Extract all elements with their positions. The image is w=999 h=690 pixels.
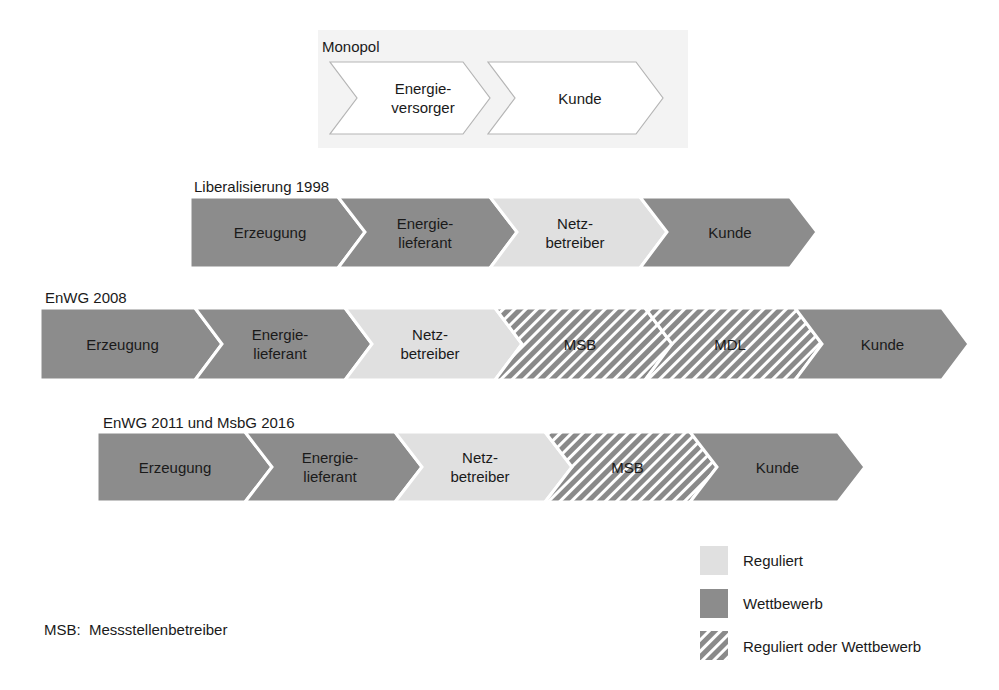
legend-label-reguliert: Reguliert: [743, 552, 803, 570]
legend-label-reguliert-oder-wettbewerb: Reguliert oder Wettbewerb: [743, 638, 921, 656]
legend-swatch-reguliert: [700, 546, 728, 575]
chevron-label: Energie- lieferant: [265, 432, 395, 502]
chevron-label: MSB: [565, 432, 690, 502]
chevron-label: Netz- betreiber: [415, 432, 545, 502]
legend-swatch-hatched: [700, 631, 728, 660]
legend-swatch-wettbewerb: [700, 589, 728, 618]
chevron-label: Erzeugung: [105, 432, 245, 502]
chevron-label: Kunde: [710, 432, 845, 502]
legend-label-wettbewerb: Wettbewerb: [743, 595, 823, 613]
footnote-abbreviation: MSB: Messstellenbetreiber: [44, 621, 227, 639]
